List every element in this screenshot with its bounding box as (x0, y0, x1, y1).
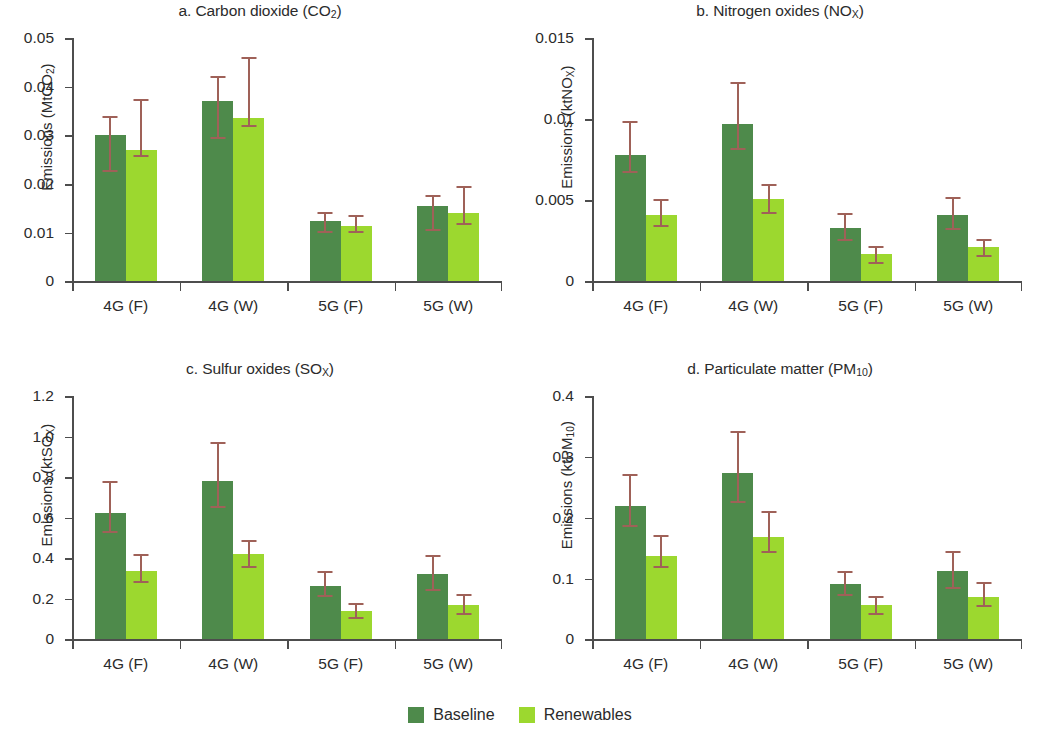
panel-a-error-cap-upper (210, 76, 225, 78)
panel-b-ylabel-subscript: X (565, 70, 576, 77)
panel-c-error-cap-upper (425, 555, 440, 557)
panel-a-y-tick: 0.02 (65, 184, 72, 186)
panel-c-x-tick (180, 641, 182, 649)
panel-a-error-bar (109, 116, 111, 171)
panel-a-error-cap-upper (134, 99, 149, 101)
panel-a-error-cap-lower (349, 231, 364, 233)
panel-d-y-tick-label: 0.3 (552, 447, 574, 465)
panel-c-error-bar (432, 555, 434, 589)
panel-a-error-bar (248, 57, 250, 125)
panel-d-error-cap-lower (976, 605, 991, 607)
panel-b-title-text: b. Nitrogen oxides (NO (696, 2, 851, 19)
panel-c-error-cap-lower (210, 506, 225, 508)
panel-b-error-bar (875, 246, 877, 262)
panel-a-plot-area: 00.010.020.030.040.054G (F)4G (W)5G (F)5… (72, 38, 502, 283)
panel-b-error-bar (737, 82, 739, 149)
panel-d-plot-area: 00.10.20.30.44G (F)4G (W)5G (F)5G (W) (592, 396, 1022, 641)
panel-a-y-tick: 0 (65, 281, 72, 283)
panel-d-bar-renewables (646, 556, 677, 639)
panel-a-y-tick-label: 0.03 (24, 126, 54, 144)
panel-c-y-tick: 0.2 (65, 599, 72, 601)
panel-c-error-cap-upper (349, 603, 364, 605)
panel-d-error-cap-upper (623, 474, 638, 476)
panel-d-y-tick: 0.2 (585, 518, 592, 520)
panel-c-error-cap-upper (103, 481, 118, 483)
panel-a-error-bar (324, 212, 326, 231)
panel-b-error-cap-upper (945, 197, 960, 199)
panel-c-y-tick: 1.2 (65, 396, 72, 398)
panel-a-error-cap-lower (134, 155, 149, 157)
panel-sulfur-oxides: c. Sulfur oxides (SOX) Emissions (ktSOX)… (0, 358, 520, 713)
panel-a-y-tick: 0.01 (65, 233, 72, 235)
legend-swatch-renewables (519, 707, 535, 723)
panel-a-ylabel-suffix: ) (38, 63, 55, 68)
panel-c-error-cap-lower (349, 617, 364, 619)
panel-c-y-tick-label: 0.6 (32, 508, 54, 526)
panel-a-ylabel-subscript: 2 (45, 68, 56, 74)
legend-swatch-baseline (408, 707, 424, 723)
panel-a-title-suffix: ) (336, 2, 341, 19)
panel-c-x-tick (395, 641, 397, 649)
panel-d-x-tick (807, 641, 809, 649)
panel-c-plot-area: 00.20.40.60.81.01.24G (F)4G (W)5G (F)5G … (72, 396, 502, 641)
panel-a-y-tick-label: 0.04 (24, 77, 54, 95)
panel-b-y-tick-label: 0.01 (544, 110, 574, 128)
panel-c-x-tick-label: 5G (F) (318, 655, 363, 673)
panel-d-x-tick (700, 641, 702, 649)
panel-d-title-subscript: 10 (856, 366, 868, 378)
panel-c-ylabel-text: Emissions (ktSO (38, 436, 55, 547)
panel-c-error-cap-lower (456, 613, 471, 615)
emissions-figure: a. Carbon dioxide (CO2) Emissions (MtCO2… (0, 0, 1040, 743)
panel-c-error-bar (324, 571, 326, 595)
panel-d-y-tick-label: 0.1 (552, 569, 574, 587)
panel-a-error-bar (140, 99, 142, 155)
panel-b-y-tick-label: 0.015 (535, 29, 574, 47)
panel-b-error-cap-upper (838, 213, 853, 215)
panel-d-x-tick-label: 5G (W) (943, 655, 993, 673)
panel-b-bar-baseline (615, 155, 646, 282)
panel-a-y-tick: 0.05 (65, 38, 72, 40)
panel-c-error-bar (248, 540, 250, 566)
panel-a-error-cap-lower (241, 125, 256, 127)
panel-c-title: c. Sulfur oxides (SOX) (0, 360, 520, 378)
panel-d-error-bar (768, 511, 770, 551)
panel-b-error-bar (983, 239, 985, 255)
panel-b-error-bar (660, 199, 662, 225)
panel-b-x-tick (1021, 283, 1023, 291)
panel-c-error-cap-upper (134, 554, 149, 556)
panel-b-error-cap-lower (838, 239, 853, 241)
panel-b-y-tick: 0 (585, 281, 592, 283)
panel-b-x-tick (807, 283, 809, 291)
panel-d-y-tick: 0.1 (585, 579, 592, 581)
panel-b-x-tick (915, 283, 917, 291)
panel-d-x-tick (915, 641, 917, 649)
panel-c-x-tick-label: 5G (W) (423, 655, 473, 673)
panel-c-y-tick: 0.6 (65, 518, 72, 520)
panel-d-error-bar (952, 551, 954, 587)
panel-c-y-tick: 0.8 (65, 477, 72, 479)
panel-c-error-bar (463, 594, 465, 613)
panel-a-y-tick-label: 0 (45, 272, 54, 290)
panel-a-error-cap-upper (103, 116, 118, 118)
panel-d-error-cap-lower (654, 566, 669, 568)
panel-a-y-tick: 0.03 (65, 135, 72, 137)
panel-c-x-tick (72, 641, 74, 649)
panel-b-title: b. Nitrogen oxides (NOX) (520, 2, 1040, 20)
panel-b-error-cap-lower (730, 148, 745, 150)
panel-b-error-cap-upper (761, 184, 776, 186)
panel-b-ylabel-suffix: ) (558, 65, 575, 70)
panel-c-y-tick: 0 (65, 639, 72, 641)
panel-c-y-tick-label: 0.2 (32, 589, 54, 607)
panel-c-error-cap-lower (318, 595, 333, 597)
panel-c-y-tick: 0.4 (65, 558, 72, 560)
panel-c-y-tick-label: 1.2 (32, 387, 54, 405)
panel-c-title-text: c. Sulfur oxides (SO (186, 360, 322, 377)
panel-b-x-tick-label: 5G (F) (838, 297, 883, 315)
panel-a-error-bar (432, 195, 434, 229)
panel-b-y-tick-label: 0.005 (535, 191, 574, 209)
panel-d-error-bar (629, 474, 631, 525)
panel-b-y-tick: 0.005 (585, 200, 592, 202)
legend-item: Renewables (519, 706, 632, 724)
legend-label: Baseline (433, 706, 494, 724)
panel-d-error-cap-lower (945, 587, 960, 589)
